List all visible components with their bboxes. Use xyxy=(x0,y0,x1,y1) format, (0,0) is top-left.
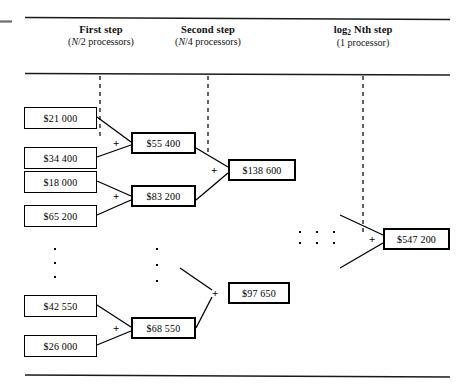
plus-sign-sum-final: + xyxy=(369,234,375,245)
figure-canvas: First step (N/2 processors) Second step … xyxy=(0,0,466,391)
plus-sign-sum-2: + xyxy=(113,191,119,202)
edge-upper-sum5 xyxy=(180,268,212,290)
horizontal-ellipsis-right xyxy=(299,231,335,244)
title-pre: log xyxy=(334,24,348,35)
ellipsis-dot xyxy=(156,248,158,250)
vertical-ellipsis-middle xyxy=(155,248,159,282)
value-box-sum-final: $547 200 xyxy=(383,228,450,250)
ellipsis-dot-column xyxy=(316,231,318,244)
value-box-leaf-5: $42 550 xyxy=(24,295,97,317)
rule-header xyxy=(25,74,450,76)
edge-top-final xyxy=(340,215,383,235)
ellipsis-dot xyxy=(299,242,301,244)
plus-sign-sum-5: + xyxy=(212,288,218,299)
title-var: N xyxy=(354,24,362,35)
ellipsis-dot xyxy=(333,242,335,244)
value-box-sum-1: $55 400 xyxy=(131,132,196,154)
edge-bottom-final xyxy=(340,243,383,268)
header-second-step: Second step (N/4 processors) xyxy=(143,24,273,48)
edge-sum3-sum5 xyxy=(196,297,212,328)
ellipsis-dot xyxy=(299,231,301,233)
ellipsis-dot-column xyxy=(299,231,301,244)
plus-sign-sum-3: + xyxy=(113,323,119,334)
diagram-lines xyxy=(0,0,466,391)
rule-top xyxy=(25,18,450,20)
vertical-ellipsis-left xyxy=(53,248,57,278)
ellipsis-dot xyxy=(54,262,56,264)
title-post: th step xyxy=(362,24,393,35)
ellipsis-dot xyxy=(156,264,158,266)
header-second-step-title: Second step xyxy=(143,24,273,36)
plus-sign-sum-1: + xyxy=(113,138,119,149)
value-box-leaf-6: $26 000 xyxy=(24,335,97,357)
value-box-leaf-1: $21 000 xyxy=(24,107,97,129)
sub-rest: /4 processors) xyxy=(185,36,241,47)
sub-rest: /2 processors) xyxy=(78,36,134,47)
value-box-sum-2: $83 200 xyxy=(131,185,196,207)
value-box-leaf-3: $18 000 xyxy=(24,171,97,193)
rule-bottom xyxy=(25,375,450,377)
ellipsis-dot xyxy=(316,231,318,233)
value-box-leaf-4: $65 200 xyxy=(24,205,97,227)
header-log-nth-step-subtitle: (1 processor) xyxy=(298,37,428,49)
header-log-nth-step: log2 Nth step (1 processor) xyxy=(298,24,428,49)
value-box-sum-4: $138 600 xyxy=(228,159,296,181)
plus-sign-sum-4: + xyxy=(211,165,217,176)
edge-sum2-sum4 xyxy=(196,173,228,200)
header-second-step-subtitle: (N/4 processors) xyxy=(143,36,273,48)
edge-leaf4-sum2 xyxy=(97,200,131,215)
ellipsis-dot xyxy=(156,280,158,282)
value-box-sum-3: $68 550 xyxy=(131,317,196,339)
ellipsis-dot xyxy=(54,276,56,278)
ellipsis-dot-column xyxy=(333,231,335,244)
value-box-leaf-2: $34 400 xyxy=(24,147,97,169)
ellipsis-dot xyxy=(316,242,318,244)
header-log-nth-step-title: log2 Nth step xyxy=(298,24,428,37)
value-box-sum-5: $97 650 xyxy=(228,282,290,304)
ellipsis-dot xyxy=(54,248,56,250)
ellipsis-dot xyxy=(333,231,335,233)
